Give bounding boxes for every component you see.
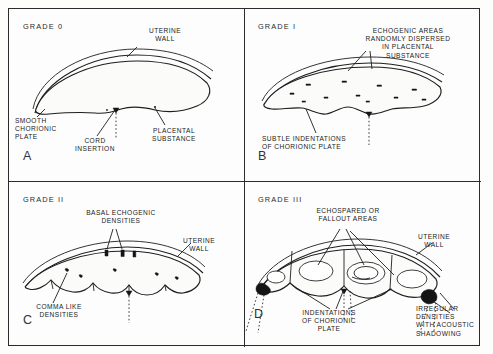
panel-d-grade-3: GRADE III D [244,181,481,347]
figure-canvas: GRADE 0 A [0,0,493,354]
panel-c-drawing [9,181,244,347]
label-uterine-wall-d: UTERINE WALL [404,233,464,249]
label-cord-insertion: CORD INSERTION [67,137,123,153]
label-irregular-densities: IRREGULAR DENSITIES WITH ACOUSTIC SHADOW… [416,305,474,338]
panel-a-grade-0: GRADE 0 A [9,9,244,181]
label-uterine-wall-a: UTERINE WALL [125,27,205,43]
label-echogenic-areas: ECHOGENIC AREAS RANDOMLY DISPERSED IN PL… [352,27,464,60]
label-smooth-chorionic-plate: SMOOTH CHORIONIC PLATE [15,117,57,142]
label-comma-like-densities: COMMA LIKE DENSITIES [19,303,99,319]
label-uterine-wall-c: UTERINE WALL [169,237,229,253]
label-subtle-indentations: SUBTLE INDENTATIONS OF CHORIONIC PLATE [262,135,346,151]
panel-b-grade-1: GRADE I B [244,9,481,181]
figure-frame: GRADE 0 A [8,8,480,346]
panel-c-grade-2: GRADE II C [9,181,244,347]
label-placental-substance: PLACENTAL SUBSTANCE [141,127,207,143]
label-indentations-chorionic-plate: INDENTATIONS OF CHORIONIC PLATE [288,309,370,334]
label-basal-echogenic-densities: BASAL ECHOGENIC DENSITIES [73,209,169,225]
label-echospared-fallout: ECHOSPARED OR FALLOUT AREAS [300,207,396,223]
